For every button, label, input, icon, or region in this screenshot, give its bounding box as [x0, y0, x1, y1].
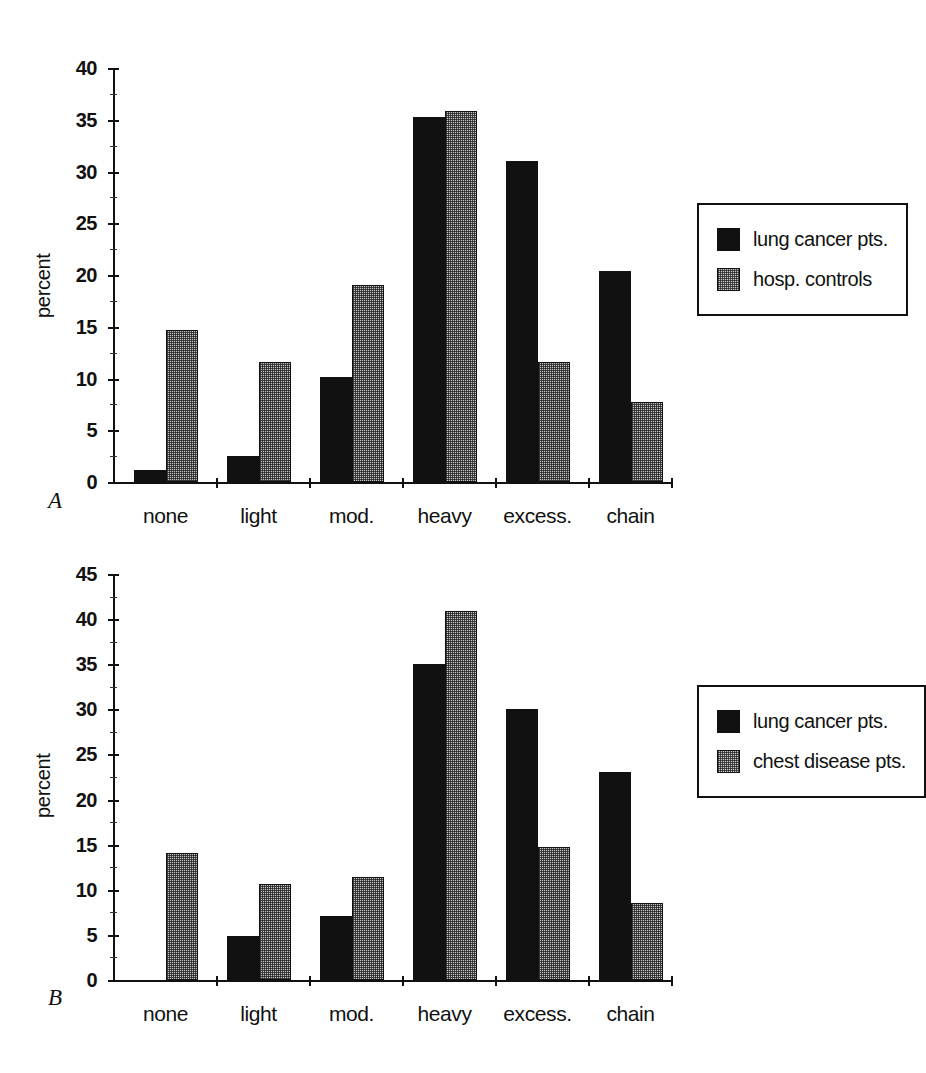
x-axis-label-chain: chain	[561, 504, 701, 528]
bar-heavy-series1	[413, 664, 445, 980]
x-axis-tick	[309, 976, 311, 986]
y-axis-tick	[108, 172, 119, 174]
bar-chain-series1	[599, 271, 631, 482]
y-axis-minor-tick	[110, 94, 117, 95]
y-axis-tick	[108, 482, 119, 484]
chart-panel-a: 0510152025303540nonelightmod.heavyexcess…	[0, 0, 926, 536]
y-axis-tick	[108, 120, 119, 122]
y-axis-tick	[108, 223, 119, 225]
y-axis-tick	[108, 800, 119, 802]
y-axis-tick	[108, 574, 119, 576]
bar-none-series2	[166, 853, 198, 980]
y-axis-minor-tick	[110, 597, 117, 598]
bar-light-series2	[259, 362, 291, 482]
bar-light-series2	[259, 884, 291, 980]
legend-row-series2-b: chest disease pts.	[717, 741, 906, 781]
y-axis-tick	[108, 664, 119, 666]
y-axis-tick-label: 40	[31, 609, 97, 629]
y-axis-minor-tick	[110, 777, 117, 778]
x-axis-tick	[216, 478, 218, 488]
legend-swatch-light-icon	[717, 268, 740, 291]
y-axis-tick-label: 5	[31, 925, 97, 945]
bar-mod-series1	[320, 377, 352, 482]
y-axis-tick-label: 35	[31, 654, 97, 674]
legend-label-series2-b: chest disease pts.	[753, 750, 906, 773]
legend-label-series1-a: lung cancer pts.	[753, 228, 888, 251]
y-axis-minor-tick	[110, 867, 117, 868]
y-axis-tick	[108, 935, 119, 937]
x-axis-tick	[216, 976, 218, 986]
y-axis-minor-tick	[110, 822, 117, 823]
legend-a: lung cancer pts. hosp. controls	[697, 203, 908, 316]
bar-chain-series1	[599, 772, 631, 980]
x-axis-tick-end	[671, 976, 673, 986]
y-axis-tick	[108, 709, 119, 711]
x-axis-tick	[588, 478, 590, 488]
legend-swatch-light-icon	[717, 750, 740, 773]
x-axis-tick	[309, 478, 311, 488]
legend-swatch-dark-icon	[717, 710, 740, 733]
y-axis-tick	[108, 754, 119, 756]
bar-heavy-series2	[445, 611, 477, 980]
y-axis-tick-label: 15	[31, 835, 97, 855]
y-axis-minor-tick	[110, 456, 117, 457]
bar-mod-series1	[320, 916, 352, 980]
y-axis-tick	[108, 980, 119, 982]
y-axis-minor-tick	[110, 146, 117, 147]
x-axis-tick	[495, 976, 497, 986]
legend-label-series1-b: lung cancer pts.	[753, 710, 888, 733]
legend-label-series2-a: hosp. controls	[753, 268, 872, 291]
bar-mod-series2	[352, 877, 384, 980]
y-axis-tick-label: 15	[31, 317, 97, 337]
y-axis-minor-tick	[110, 404, 117, 405]
y-axis-tick	[108, 430, 119, 432]
y-axis-tick	[108, 619, 119, 621]
legend-swatch-dark-icon	[717, 228, 740, 251]
x-axis-label-chain: chain	[561, 1002, 701, 1026]
y-axis-tick-label: 25	[31, 213, 97, 233]
bar-excess-series2	[538, 362, 570, 482]
y-axis-title-b: percent	[32, 753, 55, 818]
y-axis-tick-label: 0	[31, 472, 97, 492]
y-axis-minor-tick	[110, 301, 117, 302]
bar-none-series1	[134, 470, 166, 482]
bar-light-series1	[227, 456, 259, 482]
y-axis-tick-label: 45	[31, 564, 97, 584]
bar-chain-series2	[631, 402, 663, 482]
y-axis-title-a: percent	[32, 253, 55, 318]
y-axis-tick	[108, 327, 119, 329]
bar-excess-series1	[506, 709, 538, 980]
y-axis-tick	[108, 379, 119, 381]
y-axis-minor-tick	[110, 732, 117, 733]
bar-excess-series1	[506, 161, 538, 482]
y-axis-minor-tick	[110, 912, 117, 913]
bar-heavy-series2	[445, 111, 477, 482]
x-axis-tick-end	[671, 478, 673, 488]
y-axis-tick-label: 10	[31, 880, 97, 900]
y-axis-minor-tick	[110, 353, 117, 354]
legend-row-series1-b: lung cancer pts.	[717, 701, 906, 741]
bar-mod-series2	[352, 285, 384, 482]
panel-letter-a: A	[48, 488, 62, 514]
y-axis-tick-label: 10	[31, 369, 97, 389]
bar-excess-series2	[538, 847, 570, 980]
panel-letter-b: B	[48, 985, 62, 1011]
bar-chain-series2	[631, 903, 663, 980]
y-axis-tick-label: 5	[31, 420, 97, 440]
x-axis-tick	[588, 976, 590, 986]
legend-row-series1-a: lung cancer pts.	[717, 219, 888, 259]
y-axis-tick	[108, 68, 119, 70]
y-axis-tick	[108, 845, 119, 847]
y-axis-tick-label: 35	[31, 110, 97, 130]
x-axis-tick	[402, 478, 404, 488]
bar-light-series1	[227, 936, 259, 980]
y-axis-tick	[108, 890, 119, 892]
y-axis-tick-label: 0	[31, 970, 97, 990]
y-axis-minor-tick	[110, 687, 117, 688]
y-axis-minor-tick	[110, 642, 117, 643]
bar-heavy-series1	[413, 117, 445, 482]
bar-none-series2	[166, 330, 198, 482]
legend-row-series2-a: hosp. controls	[717, 259, 888, 299]
y-axis-minor-tick	[110, 197, 117, 198]
y-axis-minor-tick	[110, 249, 117, 250]
